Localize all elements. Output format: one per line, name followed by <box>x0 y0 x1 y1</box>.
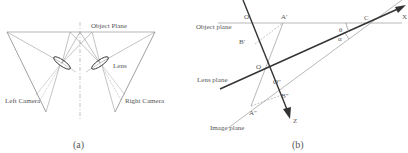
label-z-axis: Z <box>293 117 297 125</box>
dashed-b-double-prime <box>251 95 282 106</box>
label-image-plane: Image plane <box>210 124 244 132</box>
label-left-camera: Left Camera <box>5 97 41 105</box>
label-o: O <box>256 63 261 71</box>
diagram-canvas: Object Plane Lens Left Camera Right Came… <box>0 0 408 153</box>
label-object-plane-a: Object Plane <box>91 22 127 30</box>
label-lens-plane: Lens plane <box>197 76 228 84</box>
label-right-camera: Right Camera <box>125 97 165 105</box>
label-x-axis: X <box>402 13 407 21</box>
panel-a: Object Plane Lens Left Camera Right Came… <box>5 22 165 151</box>
caption-b: (b) <box>292 139 304 151</box>
label-o-double-prime: O″ <box>273 78 281 86</box>
x-axis-arrow-icon <box>395 5 406 13</box>
label-lens: Lens <box>113 62 127 70</box>
caption-a: (a) <box>73 139 84 151</box>
angle-theta-arc <box>346 23 349 32</box>
label-o-prime: O′ <box>244 13 251 21</box>
label-b-double-prime: B″ <box>281 92 289 100</box>
angle-alpha-arc <box>345 33 349 39</box>
panel-b: O′ A′ B′ O O″ B″ A″ C θ α X Z Object pla… <box>196 0 407 151</box>
label-object-plane-b: Object plane <box>196 23 232 31</box>
label-theta: θ <box>339 26 343 34</box>
z-axis-arrow-icon <box>283 107 291 119</box>
label-c: C <box>364 14 369 22</box>
label-a-prime: A′ <box>281 13 288 21</box>
label-a-double-prime: A″ <box>249 109 257 117</box>
label-b-prime: B′ <box>239 38 246 46</box>
label-alpha: α <box>338 35 342 43</box>
